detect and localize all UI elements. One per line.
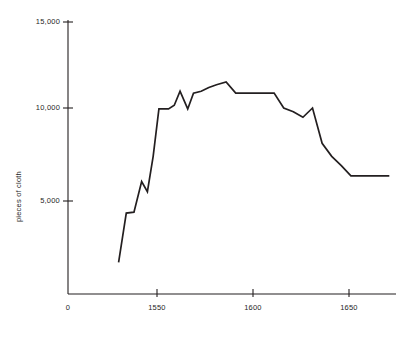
chart-container: 15,000 10,000 5,000 0 1550 1600 1650 pie… [0, 0, 404, 337]
y-axis-label-5000: 5,000 [4, 196, 60, 205]
y-axis-label-10000: 10,000 [4, 103, 60, 112]
x-axis-label-1650: 1650 [329, 303, 369, 312]
x-axis-label-1600: 1600 [233, 303, 273, 312]
data-series-line [119, 82, 390, 262]
y-axis-label-15000: 15,000 [4, 17, 60, 26]
x-axis-label-1550: 1550 [137, 303, 177, 312]
y-axis-title: pieces of cloth [14, 142, 23, 222]
x-axis-label-0: 0 [58, 303, 78, 312]
chart-plot-area [0, 0, 404, 337]
